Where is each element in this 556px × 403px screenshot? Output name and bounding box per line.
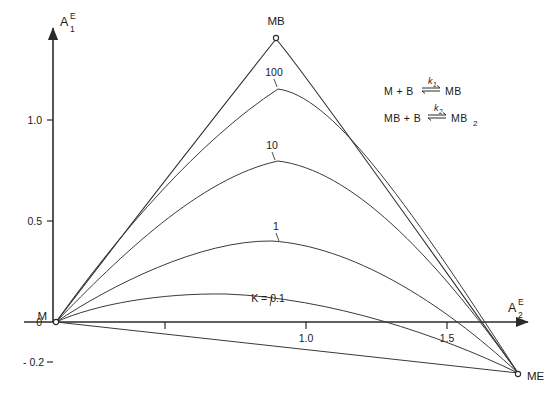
point-label-MB: MB — [267, 15, 285, 27]
y-tick-label-1.0: 1.0 — [27, 114, 42, 126]
y-tick-label--0.2: - 0.2 — [23, 356, 44, 368]
equation-2: MB + B k 2 MB 2 — [384, 103, 478, 128]
equilibrium-arrow-1 — [422, 86, 440, 94]
curve-labels: 100 10 1 K = 0.1 — [251, 66, 285, 304]
equation-1-left: M + B — [384, 85, 414, 97]
x-tick-label-1.0: 1.0 — [299, 332, 314, 344]
x-axis-title: A E 2 — [508, 297, 524, 320]
equation-2-left: MB + B — [384, 112, 421, 124]
curve-label-10: 10 — [266, 139, 278, 151]
x-axis: 1.0 1.5 A E 2 — [24, 297, 528, 344]
y-axis-title-sup: E — [70, 11, 76, 21]
label-leaders — [270, 79, 279, 306]
y-axis-title-sub: 1 — [70, 24, 75, 34]
curve-label-k-0.1: K = 0.1 — [251, 292, 285, 304]
x-axis-title-base: A — [508, 301, 517, 315]
reaction-equations: M + B k 1 MB MB + B k 2 MB 2 — [384, 76, 478, 128]
curve-tie-line — [56, 322, 518, 373]
equation-1-right: MB — [445, 85, 462, 97]
equation-1-rate-constant-sub: 1 — [433, 81, 437, 88]
y-tick-label-0.5: 0.5 — [27, 215, 42, 227]
x-axis-title-sub: 2 — [518, 310, 523, 320]
curve-label-100: 100 — [265, 66, 283, 78]
equation-2-right: MB — [451, 112, 468, 124]
equation-2-rate-constant-sub: 2 — [438, 108, 443, 115]
point-label-M: M — [37, 310, 47, 322]
leader-1 — [276, 233, 279, 241]
figure-container: 1.0 0.5 0 - 0.2 A E 1 1.0 1.5 A E 2 — [0, 0, 556, 403]
leader-100 — [274, 79, 277, 87]
marker-ME — [515, 371, 520, 376]
point-markers: M MB ME — [37, 15, 544, 382]
y-axis-title-base: A — [60, 15, 69, 29]
y-axis-title: A E 1 — [60, 11, 76, 34]
leader-10 — [272, 152, 275, 160]
marker-MB — [273, 35, 278, 40]
equilibrium-arrow-2 — [428, 113, 446, 121]
equation-2-right-sub: 2 — [473, 119, 478, 128]
marker-M — [53, 319, 58, 324]
x-axis-title-sup: E — [518, 297, 524, 307]
chart-svg: 1.0 0.5 0 - 0.2 A E 1 1.0 1.5 A E 2 — [0, 0, 556, 403]
curve-label-1: 1 — [273, 220, 279, 232]
curve-k-1 — [56, 241, 518, 373]
equation-1: M + B k 1 MB — [384, 76, 462, 97]
point-label-ME: ME — [527, 370, 545, 382]
